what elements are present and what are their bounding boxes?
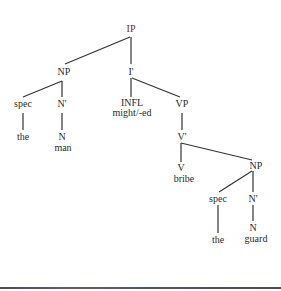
bottom-divider xyxy=(0,287,281,289)
word-object-the: the xyxy=(212,234,224,245)
node-object-np: NP xyxy=(250,160,263,171)
node-object-spec: spec xyxy=(209,193,227,204)
word-infl: might/-ed xyxy=(113,107,152,118)
node-ip: IP xyxy=(127,23,136,34)
node-subject-spec: spec xyxy=(14,98,32,109)
node-v: V xyxy=(177,162,184,173)
word-man: man xyxy=(54,142,71,153)
word-subject-the: the xyxy=(17,131,29,142)
node-vp: VP xyxy=(176,98,189,109)
node-subject-np: NP xyxy=(58,66,71,77)
node-subject-n: N xyxy=(58,131,65,142)
node-object-n: N xyxy=(249,222,256,233)
node-vbar: V' xyxy=(177,131,186,142)
node-subject-nbar: N' xyxy=(57,98,66,109)
word-guard: guard xyxy=(245,233,268,244)
word-bribe: bribe xyxy=(174,173,195,184)
node-object-nbar: N' xyxy=(248,193,257,204)
tree-branches xyxy=(0,0,281,291)
node-ibar: I' xyxy=(128,66,133,77)
